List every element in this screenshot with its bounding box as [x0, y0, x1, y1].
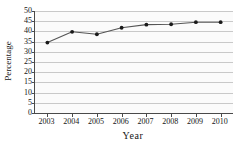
- x-axis-tick-labels: 20032004200520062007200820092010: [34, 117, 232, 129]
- y-axis-tick-label: 35: [14, 38, 32, 46]
- y-axis-tick-label: 30: [14, 48, 32, 56]
- data-point: [219, 20, 223, 24]
- x-axis-tick-label: 2010: [205, 117, 235, 127]
- data-point: [95, 32, 99, 36]
- y-axis-tick-labels: 05101520253035404550: [14, 8, 32, 114]
- y-axis-tick-label: 5: [14, 99, 32, 107]
- y-axis-tick-label: 25: [14, 58, 32, 66]
- data-point: [194, 20, 198, 24]
- y-axis-tick-label: 10: [14, 89, 32, 97]
- y-axis-tick-label: 0: [14, 109, 32, 117]
- data-point: [45, 41, 49, 45]
- plot-area: [34, 11, 233, 114]
- line-chart: Percentage 05101520253035404550 20032004…: [0, 0, 239, 148]
- y-axis-title-text: Percentage: [3, 41, 13, 80]
- y-axis-tick-label: 20: [14, 68, 32, 76]
- data-point: [120, 26, 124, 30]
- y-axis-tick-mark: [32, 113, 35, 114]
- data-point: [70, 30, 74, 34]
- data-series-layer: [35, 11, 233, 113]
- data-point: [169, 22, 173, 26]
- y-axis-tick-label: 45: [14, 17, 32, 25]
- y-axis-tick-label: 15: [14, 78, 32, 86]
- data-point: [144, 23, 148, 27]
- y-axis-tick-label: 40: [14, 27, 32, 35]
- x-axis-title: Year: [34, 130, 232, 142]
- y-axis-tick-label: 50: [14, 7, 32, 15]
- series-markers: [45, 20, 222, 44]
